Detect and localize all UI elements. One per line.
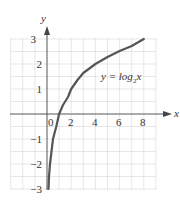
x-tick-6: 6 bbox=[116, 116, 122, 128]
x-axis-arrow-icon bbox=[163, 111, 172, 117]
x-tick-4: 4 bbox=[92, 116, 98, 128]
equation-label: y = log2x bbox=[100, 70, 141, 85]
y-tick-minus-2: −2 bbox=[30, 158, 42, 170]
x-axis-label: x bbox=[173, 107, 179, 119]
y-tick-2: 2 bbox=[37, 58, 43, 70]
x-tick-2: 2 bbox=[68, 116, 74, 128]
y-axis-label: y bbox=[40, 12, 46, 24]
x-tick-8: 8 bbox=[140, 116, 146, 128]
log-graph: x y 0 2 4 6 8 3 2 1 −1 −2 −3 y = log2x bbox=[0, 0, 180, 206]
x-tick-0: 0 bbox=[48, 116, 54, 128]
y-tick-minus-3: −3 bbox=[30, 183, 42, 195]
y-tick-1: 1 bbox=[37, 83, 43, 95]
y-tick-3: 3 bbox=[31, 33, 37, 45]
y-axis-arrow-icon bbox=[44, 26, 50, 35]
y-tick-minus-1: −1 bbox=[30, 133, 42, 145]
